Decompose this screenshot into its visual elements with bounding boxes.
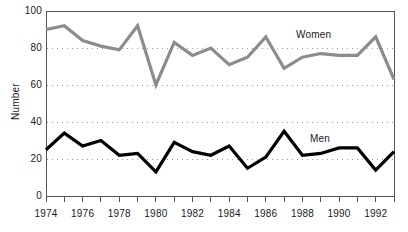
x-tick-label: 1980: [136, 208, 176, 219]
x-tick-label: 1978: [99, 208, 139, 219]
series-label-men: Men: [310, 133, 330, 144]
x-tick-label: 1982: [173, 208, 213, 219]
x-tick-label: 1976: [63, 208, 103, 219]
x-tick-label: 1974: [26, 208, 66, 219]
x-tick-label: 1990: [319, 208, 359, 219]
line-chart: Number 020406080100 19741976197819801982…: [0, 0, 408, 232]
series-label-women: Women: [296, 29, 331, 40]
x-tick-label: 1992: [356, 208, 396, 219]
x-axis-tick-labels: 1974197619781980198219841986198819901992: [0, 0, 408, 232]
x-tick-label: 1986: [246, 208, 286, 219]
x-tick-label: 1984: [209, 208, 249, 219]
x-tick-label: 1988: [282, 208, 322, 219]
